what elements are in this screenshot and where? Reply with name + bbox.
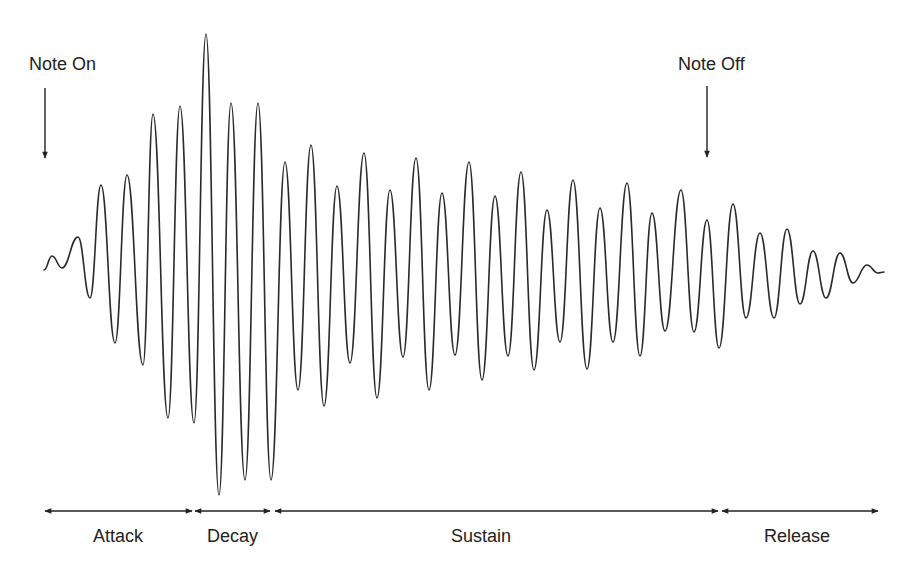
phase-label-decay: Decay [207, 526, 258, 547]
note-on-label: Note On [29, 54, 96, 75]
note-off-label: Note Off [678, 54, 745, 75]
phase-label-release: Release [764, 526, 830, 547]
adsr-diagram [0, 0, 913, 572]
phase-label-attack: Attack [93, 526, 143, 547]
phase-label-sustain: Sustain [451, 526, 511, 547]
note-waveform [44, 34, 884, 495]
